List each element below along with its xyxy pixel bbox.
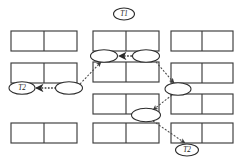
- node-left-col[interactable]: [56, 82, 83, 95]
- transaction-label-text: T2: [18, 84, 26, 92]
- transaction-label-t2-left[interactable]: T2: [9, 82, 35, 95]
- diagram-svg: T1T2T2: [0, 0, 240, 165]
- table-right-column-1: [171, 31, 233, 51]
- table-middle-column-2: [93, 62, 159, 82]
- table-right-column-2: [171, 63, 233, 83]
- table-middle-column-4: [93, 123, 159, 143]
- transaction-label-text: T2: [183, 146, 191, 154]
- diagram-canvas: T1T2T2: [0, 0, 240, 165]
- transaction-label-text: T1: [120, 10, 128, 18]
- tables-layer: [11, 31, 233, 143]
- table-right-column-3: [171, 94, 233, 114]
- node-right-col[interactable]: [165, 83, 191, 96]
- node-mid-lower[interactable]: [132, 108, 161, 122]
- node-mid-upper-right[interactable]: [133, 50, 160, 63]
- transaction-label-t1-top[interactable]: T1: [114, 8, 135, 20]
- table-left-column-2: [11, 63, 77, 83]
- node-mid-upper-left[interactable]: [91, 50, 118, 63]
- table-left-column-1: [11, 31, 77, 51]
- transaction-label-t2-bottom-right[interactable]: T2: [176, 144, 199, 156]
- table-left-column-3: [11, 123, 77, 143]
- table-middle-column-1: [93, 31, 159, 51]
